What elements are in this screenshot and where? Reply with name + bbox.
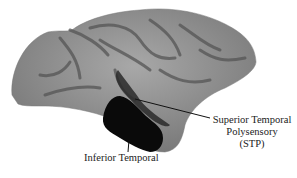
stp-label: Superior Temporal Polysensory (STP) — [206, 114, 297, 150]
inferior-temporal-label: Inferior Temporal — [84, 152, 159, 164]
stp-label-line1: Superior Temporal — [206, 114, 297, 126]
stp-label-line2: Polysensory — [206, 126, 297, 138]
stp-label-line3: (STP) — [206, 138, 297, 150]
